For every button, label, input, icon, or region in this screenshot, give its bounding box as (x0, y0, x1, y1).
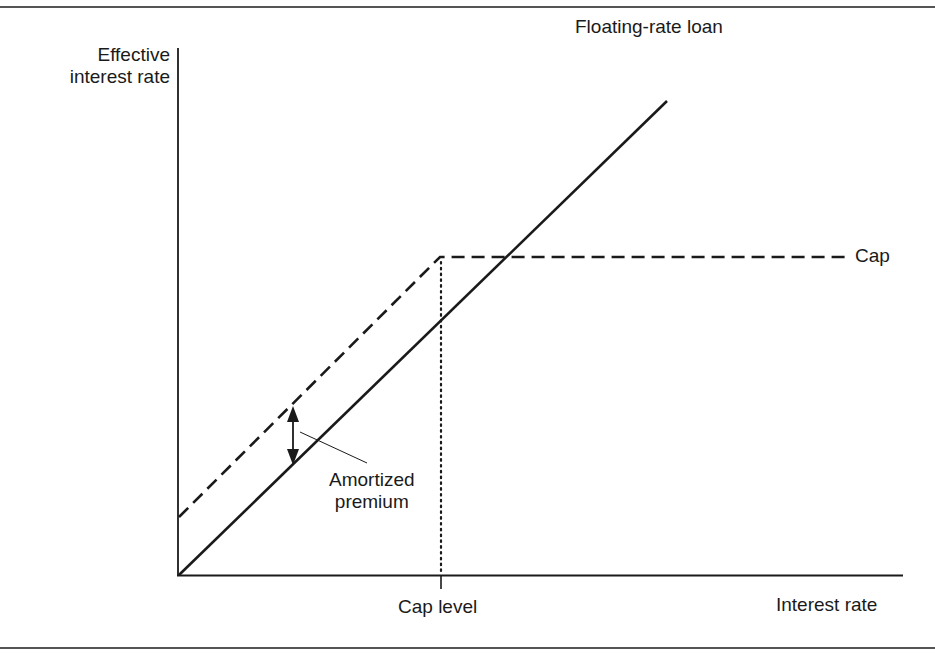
x-axis-label: Interest rate (776, 594, 877, 616)
amortized-premium-label: Amortized premium (329, 469, 415, 513)
amortized-premium-line-1: Amortized (329, 469, 415, 491)
cap-label: Cap (855, 245, 890, 267)
floating-rate-loan-label: Floating-rate loan (575, 16, 723, 38)
amortized-premium-line-2: premium (329, 491, 415, 513)
y-axis-label-line-1: Effective (70, 44, 170, 66)
cap-level-label: Cap level (398, 596, 477, 618)
floating-rate-loan-line (179, 101, 667, 575)
amortized-premium-double-arrow-icon (287, 406, 299, 465)
interest-rate-cap-diagram (0, 0, 935, 661)
y-axis-label: Effective interest rate (70, 44, 170, 88)
y-axis-label-line-2: interest rate (70, 66, 170, 88)
